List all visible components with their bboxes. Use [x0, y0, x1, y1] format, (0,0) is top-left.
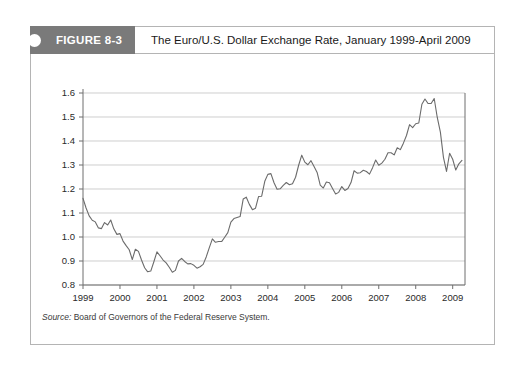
figure-header: FIGURE 8-3 The Euro/U.S. Dollar Exchange…	[30, 26, 495, 54]
tab-notch-icon	[28, 34, 41, 47]
figure-number-label: FIGURE 8-3	[56, 26, 122, 54]
source-label: Source:	[42, 312, 71, 322]
page-title: The Euro/U.S. Dollar Exchange Rate, Janu…	[151, 27, 471, 53]
figure-body: Source: Board of Governors of the Federa…	[30, 54, 495, 345]
figure-container: FIGURE 8-3 The Euro/U.S. Dollar Exchange…	[0, 0, 520, 369]
figure-number-tab: FIGURE 8-3	[30, 26, 135, 54]
source-note: Source: Board of Governors of the Federa…	[42, 312, 270, 322]
figure-title-box: The Euro/U.S. Dollar Exchange Rate, Janu…	[135, 26, 495, 54]
source-text: Board of Governors of the Federal Reserv…	[71, 312, 269, 322]
